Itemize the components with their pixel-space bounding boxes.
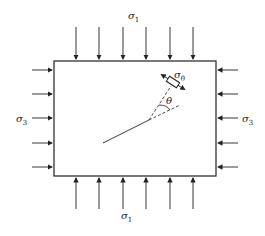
crack-extension-dashed <box>149 105 180 120</box>
specimen-box <box>54 61 216 176</box>
label-symbol: θ <box>166 95 172 106</box>
label-sigma1-top: σ1 <box>128 11 139 24</box>
stress-diagram <box>0 0 265 236</box>
label-symbol: σ <box>242 113 249 124</box>
crack-line <box>103 120 149 143</box>
label-sigma1-bottom: σ1 <box>121 211 132 224</box>
bottom-load-arrows <box>76 178 193 209</box>
label-symbol: σ <box>128 10 135 21</box>
label-symbol: σ <box>174 69 181 80</box>
label-sigma3-left: σ3 <box>16 114 27 127</box>
label-subscript: 1 <box>128 216 132 224</box>
right-load-arrows <box>218 70 238 167</box>
label-subscript: 1 <box>135 16 139 24</box>
label-subscript: 3 <box>23 119 27 127</box>
label-subscript: θ <box>181 75 185 83</box>
label-sigma3-right: σ3 <box>242 114 253 127</box>
label-symbol: σ <box>16 113 23 124</box>
label-symbol: σ <box>121 210 128 221</box>
left-load-arrows <box>32 70 52 167</box>
label-subscript: 3 <box>249 119 253 127</box>
label-theta-angle: θ <box>166 96 172 106</box>
label-sigma-theta: σθ <box>174 70 185 83</box>
top-load-arrows <box>76 27 193 59</box>
